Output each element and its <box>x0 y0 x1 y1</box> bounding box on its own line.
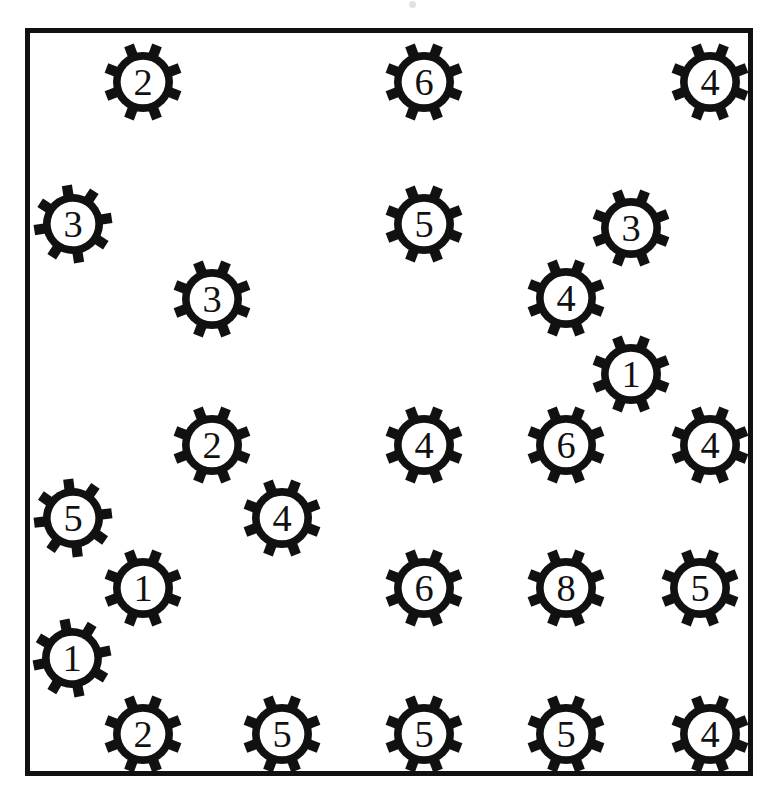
gear-icon[interactable]: 5 <box>523 691 610 778</box>
gear-outline <box>523 691 610 778</box>
gear-outline <box>523 255 610 342</box>
gear-outline <box>239 475 326 562</box>
gear-icon[interactable]: 3 <box>30 181 117 268</box>
gear-outline <box>667 691 754 778</box>
gear-outline <box>100 39 187 126</box>
gear-outline <box>523 545 610 632</box>
gear-outline <box>381 39 468 126</box>
gear-outline <box>100 691 187 778</box>
gear-icon[interactable]: 2 <box>100 691 187 778</box>
gear-icon[interactable]: 5 <box>657 545 744 632</box>
gear-icon[interactable]: 4 <box>523 255 610 342</box>
gear-icon[interactable]: 4 <box>381 402 468 489</box>
gear-outline <box>381 402 468 489</box>
gear-outline <box>239 691 326 778</box>
diagram-canvas: 2643533412464541685125554 <box>0 0 769 803</box>
gear-icon[interactable]: 6 <box>523 402 610 489</box>
gear-icon[interactable]: 2 <box>100 39 187 126</box>
gear-outline <box>523 402 610 489</box>
gear-outline <box>29 615 116 702</box>
gear-icon[interactable]: 4 <box>667 402 754 489</box>
scan-speck <box>409 1 416 8</box>
gear-icon[interactable]: 5 <box>239 691 326 778</box>
gear-outline <box>657 545 744 632</box>
gear-outline <box>30 181 117 268</box>
gear-icon[interactable]: 1 <box>29 615 116 702</box>
gear-outline <box>667 39 754 126</box>
gear-icon[interactable]: 5 <box>381 181 468 268</box>
gear-outline <box>381 545 468 632</box>
gear-icon[interactable]: 4 <box>667 691 754 778</box>
gear-outline <box>381 691 468 778</box>
gear-icon[interactable]: 6 <box>381 545 468 632</box>
gear-icon[interactable]: 4 <box>239 475 326 562</box>
gear-icon[interactable]: 4 <box>667 39 754 126</box>
gear-outline <box>381 181 468 268</box>
gear-icon[interactable]: 8 <box>523 545 610 632</box>
gear-icon[interactable]: 5 <box>381 691 468 778</box>
gear-icon[interactable]: 6 <box>381 39 468 126</box>
gear-outline <box>667 402 754 489</box>
gear-outline <box>169 256 256 343</box>
gear-icon[interactable]: 3 <box>169 256 256 343</box>
